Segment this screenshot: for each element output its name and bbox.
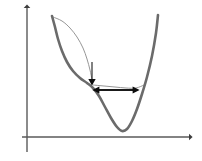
potential-curve-figure [0, 0, 202, 161]
figure-root [0, 0, 202, 161]
